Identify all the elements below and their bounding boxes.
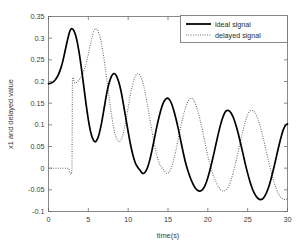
y-axis-label: x1 and delayed value: [6, 79, 15, 149]
chart-legend: ideal signal delayed signal: [181, 16, 288, 43]
x-tick-label: 0: [47, 215, 51, 224]
x-tick-label: 5: [86, 215, 90, 224]
y-tick-label: 0.15: [31, 99, 45, 108]
y-tick-label: 0: [41, 164, 45, 173]
y-tick-label: 0.3: [35, 34, 45, 43]
x-tick-label: 10: [124, 215, 132, 224]
y-tick-label: 0.25: [31, 55, 45, 64]
figure-canvas: 051015202530 0.350.30.250.20.150.10.050-…: [0, 0, 299, 245]
y-tick-label: 0.2: [35, 77, 45, 86]
x-tick-label: 30: [284, 215, 292, 224]
y-tick-label: 0.35: [31, 12, 45, 21]
y-tick-label: 0.1: [35, 120, 45, 129]
chart-plot: 051015202530 0.350.30.250.20.150.10.050-…: [0, 0, 299, 245]
legend-label-delayed-signal: delayed signal: [215, 31, 261, 40]
y-tick-label: -0.1: [32, 207, 44, 216]
x-tick-label: 20: [204, 215, 212, 224]
x-tick-label: 15: [164, 215, 172, 224]
legend-label-ideal-signal: ideal signal: [215, 20, 251, 29]
y-tick-label: -0.05: [28, 185, 44, 194]
x-axis-label: time(s): [157, 231, 180, 240]
y-tick-label: 0.05: [31, 142, 45, 151]
x-tick-label: 25: [244, 215, 252, 224]
